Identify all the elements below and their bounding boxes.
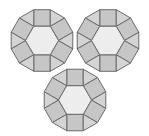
square-tile bbox=[34, 10, 51, 27]
square-tile bbox=[67, 114, 84, 130]
dodecagon-tiling-diagram bbox=[0, 0, 149, 136]
square-tile bbox=[100, 10, 117, 27]
square-tile bbox=[34, 55, 51, 72]
dodecagon-top-right bbox=[77, 10, 139, 72]
dodecagon-bottom bbox=[44, 69, 106, 131]
square-tile bbox=[100, 55, 117, 72]
square-tile bbox=[67, 69, 84, 86]
dodecagon-top-left bbox=[11, 10, 73, 72]
